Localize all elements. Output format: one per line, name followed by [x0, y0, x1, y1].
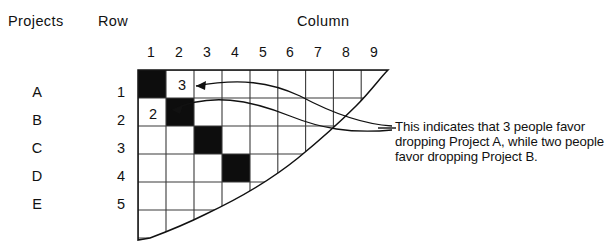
grid-lines [138, 70, 390, 242]
matrix-boundary [138, 70, 388, 240]
cell-value-r2c1: 2 [141, 107, 165, 122]
arrowhead-to-3 [196, 81, 206, 90]
matrix-figure: Projects Row Column 1 2 3 4 5 6 7 8 9 A … [0, 0, 613, 252]
filled-cell-r1c1 [138, 70, 166, 98]
cell-value-r1c2: 3 [170, 78, 194, 93]
annotation-text: This indicates that 3 people favor dropp… [395, 119, 610, 165]
filled-cell-r4c4 [222, 154, 250, 182]
filled-cell-r3c3 [194, 126, 222, 154]
leader-line-to-3 [196, 82, 392, 126]
